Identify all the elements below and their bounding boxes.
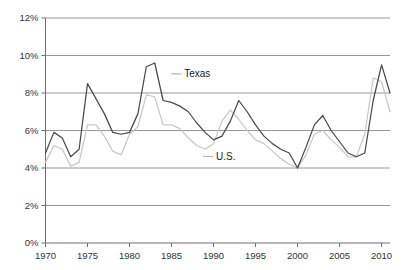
y-tick-label: 8% xyxy=(25,87,39,98)
x-tick-label: 1975 xyxy=(77,250,98,261)
y-tick-label: 4% xyxy=(25,162,39,173)
series-annotations: TexasU.S. xyxy=(171,68,235,162)
x-tick-label: 2010 xyxy=(371,250,392,261)
y-axis-tick-labels: 0%2%4%6%8%10%12% xyxy=(19,12,39,248)
series-label-texas: Texas xyxy=(184,68,210,79)
y-tick-label: 0% xyxy=(25,237,39,248)
x-tick-label: 1980 xyxy=(119,250,140,261)
y-tick-label: 2% xyxy=(25,200,39,211)
x-tick-label: 1970 xyxy=(35,250,56,261)
x-tick-label: 2000 xyxy=(287,250,308,261)
x-axis-tick-labels: 197019751980198519901995200020052010 xyxy=(35,250,392,261)
x-tick-label: 1995 xyxy=(245,250,266,261)
y-axis-ticks xyxy=(42,18,46,243)
x-axis-ticks xyxy=(46,243,382,247)
x-tick-label: 1985 xyxy=(161,250,182,261)
y-tick-label: 10% xyxy=(19,50,39,61)
line-chart: 0%2%4%6%8%10%12% 19701975198019851990199… xyxy=(0,0,412,270)
x-tick-label: 2005 xyxy=(329,250,350,261)
gridlines xyxy=(46,18,391,206)
chart-container: 0%2%4%6%8%10%12% 19701975198019851990199… xyxy=(0,0,412,270)
y-tick-label: 6% xyxy=(25,125,39,136)
y-tick-label: 12% xyxy=(19,12,39,23)
x-tick-label: 1990 xyxy=(203,250,224,261)
series-label-us: U.S. xyxy=(216,151,235,162)
